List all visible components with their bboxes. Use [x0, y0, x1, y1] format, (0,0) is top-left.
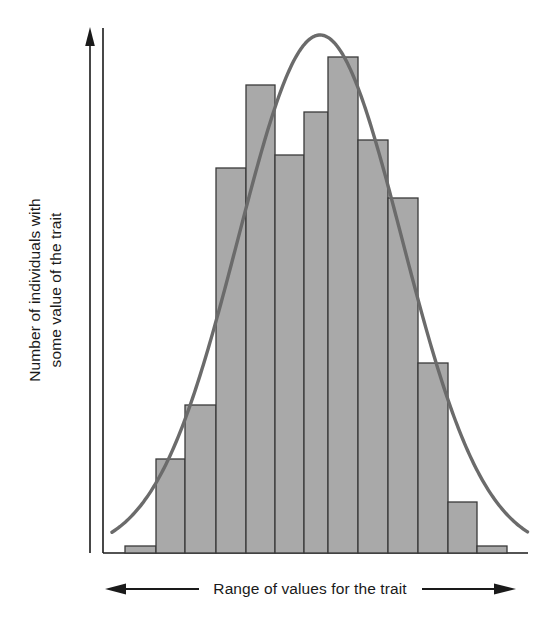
- x-axis-label-group: Range of values for the trait: [105, 580, 516, 597]
- y-axis-arrow-group: [85, 27, 95, 553]
- y-axis-title-line1: Number of individuals with: [26, 198, 43, 382]
- histogram-bars: [125, 57, 507, 553]
- histogram-bar: [328, 57, 358, 553]
- histogram-bar: [125, 546, 156, 553]
- histogram-bar: [358, 140, 388, 553]
- up-arrow-icon: [85, 27, 95, 46]
- chart-canvas: Range of values for the trait Number of …: [0, 0, 551, 617]
- y-axis-label-group: Number of individuals with some value of…: [26, 198, 64, 382]
- y-axis-title-line2: some value of the trait: [47, 212, 64, 367]
- histogram-figure: Range of values for the trait Number of …: [0, 0, 551, 617]
- right-arrow-icon: [494, 584, 516, 595]
- histogram-bar: [185, 405, 216, 553]
- left-arrow-icon: [105, 584, 126, 595]
- histogram-bar: [477, 546, 507, 553]
- histogram-bar: [275, 155, 304, 553]
- histogram-bar: [304, 112, 328, 553]
- histogram-bar: [388, 198, 418, 553]
- histogram-bar: [448, 502, 477, 553]
- x-axis-title: Range of values for the trait: [213, 580, 407, 597]
